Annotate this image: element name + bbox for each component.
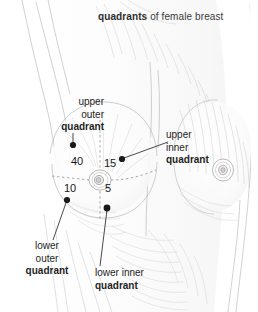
figure-title-bold: quadrants [98, 11, 147, 22]
dot-upper-inner [119, 156, 125, 162]
breast-quadrants-figure: quadrants of female breast upper outer q… [0, 0, 258, 312]
label-lower-inner-line2: quadrant [95, 280, 199, 293]
label-lower-outer-line1: lower [4, 240, 90, 253]
figure-title: quadrants of female breast [98, 11, 223, 22]
value-upper-outer: 40 [71, 155, 83, 167]
value-lower-outer: 10 [64, 182, 76, 194]
label-upper-inner-line3: quadrant [166, 154, 250, 167]
dot-lower-inner [104, 205, 111, 212]
label-upper-inner-line2: inner [166, 142, 250, 155]
label-upper-inner-quadrant: upper inner quadrant [166, 129, 250, 167]
figure-title-rest: of female breast [147, 11, 223, 22]
dot-lower-outer [64, 197, 70, 203]
label-lower-inner-line1: lower inner [95, 267, 199, 280]
label-upper-outer-line3: quadrant [12, 121, 104, 134]
value-lower-inner: 5 [105, 182, 111, 194]
label-lower-outer-line3: quadrant [4, 265, 90, 278]
label-lower-inner-quadrant: lower inner quadrant [95, 267, 199, 292]
label-upper-outer-quadrant: upper outer quadrant [12, 96, 104, 134]
label-upper-inner-line1: upper [166, 129, 250, 142]
value-upper-inner: 15 [104, 157, 116, 169]
label-lower-outer-quadrant: lower outer quadrant [4, 240, 90, 278]
label-upper-outer-line2: outer [12, 109, 104, 122]
dot-upper-outer [70, 142, 76, 148]
label-upper-outer-line1: upper [12, 96, 104, 109]
label-lower-outer-line2: outer [4, 253, 90, 266]
